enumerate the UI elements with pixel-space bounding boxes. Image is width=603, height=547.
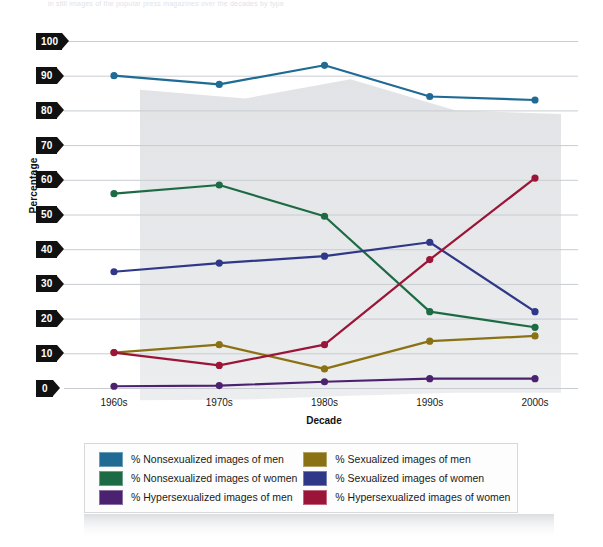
data-point bbox=[426, 239, 433, 246]
line-chart-figure: Percentage 1009080706050403020100 1960s1… bbox=[0, 0, 603, 547]
y-tick-label: 30 bbox=[36, 275, 57, 292]
data-point bbox=[110, 268, 117, 275]
data-point bbox=[110, 383, 117, 390]
y-tick-pointer-icon bbox=[62, 33, 69, 49]
legend-label: % Sexualized images of women bbox=[335, 472, 484, 484]
data-point bbox=[321, 378, 328, 385]
y-tick-label: 40 bbox=[36, 241, 57, 258]
legend-swatch-icon bbox=[303, 471, 327, 486]
data-point bbox=[110, 349, 117, 356]
data-point bbox=[426, 338, 433, 345]
data-point bbox=[321, 213, 328, 220]
data-point bbox=[321, 365, 328, 372]
y-tick-label: 80 bbox=[36, 102, 57, 119]
data-point bbox=[216, 341, 223, 348]
data-point bbox=[110, 72, 117, 79]
y-tick-label: 60 bbox=[36, 171, 57, 188]
data-point bbox=[216, 181, 223, 188]
data-point bbox=[321, 62, 328, 69]
legend-item: % Hypersexualized images of men bbox=[99, 488, 297, 507]
y-tick-label: 50 bbox=[36, 206, 57, 223]
data-point bbox=[531, 324, 538, 331]
data-point bbox=[531, 308, 538, 315]
y-tick-pointer-icon bbox=[57, 137, 64, 153]
legend-swatch-icon bbox=[303, 490, 327, 505]
y-tick-30: 30 bbox=[36, 275, 64, 292]
y-tick-100: 100 bbox=[36, 33, 69, 50]
data-point bbox=[216, 362, 223, 369]
legend-item: % Nonsexualized images of men bbox=[99, 450, 297, 469]
y-tick-label: 70 bbox=[36, 137, 57, 154]
data-point bbox=[321, 253, 328, 260]
y-tick-80: 80 bbox=[36, 102, 64, 119]
y-tick-pointer-icon bbox=[57, 102, 64, 118]
legend-label: % Nonsexualized images of men bbox=[131, 453, 284, 465]
y-tick-20: 20 bbox=[36, 310, 64, 327]
data-point bbox=[216, 259, 223, 266]
data-point bbox=[216, 382, 223, 389]
x-tick-label-2000s: 2000s bbox=[500, 397, 570, 408]
y-tick-label: 20 bbox=[36, 310, 57, 327]
y-tick-90: 90 bbox=[36, 67, 64, 84]
data-point bbox=[216, 81, 223, 88]
y-tick-pointer-icon bbox=[57, 207, 64, 223]
y-tick-10: 10 bbox=[36, 345, 64, 362]
data-point bbox=[426, 375, 433, 382]
data-point bbox=[531, 96, 538, 103]
y-tick-label: 100 bbox=[36, 33, 62, 50]
y-tick-pointer-icon bbox=[57, 241, 64, 257]
y-tick-pointer-icon bbox=[57, 68, 64, 84]
legend-label: % Hypersexualized images of men bbox=[131, 491, 293, 503]
legend-swatch-icon bbox=[99, 490, 123, 505]
data-point bbox=[426, 308, 433, 315]
data-point bbox=[531, 174, 538, 181]
y-tick-label: 0 bbox=[36, 380, 53, 397]
legend-item: % Hypersexualized images of women bbox=[303, 488, 510, 507]
legend-label: % Hypersexualized images of women bbox=[335, 491, 510, 503]
legend-label: % Nonsexualized images of women bbox=[131, 472, 297, 484]
data-point bbox=[426, 256, 433, 263]
data-point bbox=[110, 190, 117, 197]
y-tick-70: 70 bbox=[36, 137, 64, 154]
y-tick-pointer-icon bbox=[53, 380, 60, 396]
y-tick-label: 90 bbox=[36, 67, 57, 84]
y-tick-0: 0 bbox=[36, 380, 60, 397]
legend-label: % Sexualized images of men bbox=[335, 453, 470, 465]
data-point bbox=[321, 341, 328, 348]
legend-swatch-icon bbox=[99, 452, 123, 467]
x-axis-title: Decade bbox=[0, 415, 603, 426]
y-tick-50: 50 bbox=[36, 206, 64, 223]
legend-swatch-icon bbox=[303, 452, 327, 467]
y-tick-pointer-icon bbox=[57, 276, 64, 292]
y-tick-60: 60 bbox=[36, 171, 64, 188]
chart-legend: % Nonsexualized images of men% Sexualize… bbox=[84, 443, 518, 513]
legend-item: % Sexualized images of women bbox=[303, 469, 510, 488]
y-tick-pointer-icon bbox=[57, 172, 64, 188]
y-tick-label: 10 bbox=[36, 345, 57, 362]
x-tick-label-1960s: 1960s bbox=[79, 397, 149, 408]
x-tick-label-1980s: 1980s bbox=[290, 397, 360, 408]
x-tick-label-1970s: 1970s bbox=[184, 397, 254, 408]
y-tick-pointer-icon bbox=[57, 311, 64, 327]
data-point bbox=[531, 332, 538, 339]
y-tick-pointer-icon bbox=[57, 345, 64, 361]
data-point bbox=[531, 375, 538, 382]
legend-item: % Nonsexualized images of women bbox=[99, 469, 297, 488]
data-point bbox=[426, 93, 433, 100]
y-tick-40: 40 bbox=[36, 241, 64, 258]
legend-item: % Sexualized images of men bbox=[303, 450, 510, 469]
legend-swatch-icon bbox=[99, 471, 123, 486]
x-tick-label-1990s: 1990s bbox=[395, 397, 465, 408]
